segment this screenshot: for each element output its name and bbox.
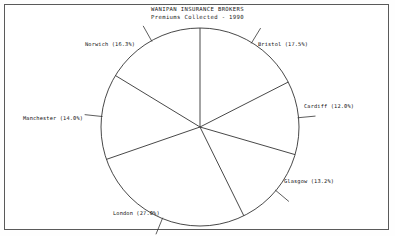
- pie-label-london: London (27.0%): [113, 210, 160, 216]
- pie-label-cardiff: Cardiff (12.0%): [304, 103, 354, 109]
- pie-label-glasgow: Glasgow (13.2%): [284, 178, 334, 184]
- chart-canvas: WANIPAN INSURANCE BROKERS Premiums Colle…: [0, 0, 395, 236]
- pie-label-manchester: Manchester (14.0%): [23, 115, 83, 121]
- pie-slices-group: [101, 28, 299, 226]
- leader-line-cardiff: [298, 116, 316, 118]
- leader-line-london: [156, 218, 163, 235]
- leader-line-norwich: [143, 26, 152, 42]
- leader-line-glasgow: [275, 190, 289, 202]
- leader-line-manchester: [85, 115, 103, 117]
- pie-label-bristol: Bristol (17.5%): [258, 41, 308, 47]
- pie-label-norwich: Norwich (16.3%): [85, 41, 135, 47]
